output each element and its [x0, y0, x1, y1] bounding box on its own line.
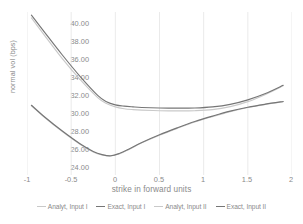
gridlines	[27, 12, 292, 175]
x-tick-label: 0.5	[146, 175, 172, 184]
x-axis-title: strike in forward units	[0, 185, 303, 194]
plot-svg	[27, 12, 292, 175]
x-tick-label: 0	[102, 175, 128, 184]
x-tick-label: 1.5	[234, 175, 260, 184]
x-tick-label: -0.5	[58, 175, 84, 184]
legend-item-label: Analyt, Input II	[165, 203, 206, 210]
legend-item[interactable]: Exact, Input I	[96, 203, 145, 210]
legend-item[interactable]: Analyt, Input I	[37, 203, 88, 210]
plot-area	[27, 12, 292, 175]
series-line	[31, 101, 283, 155]
x-tick-label: 1	[190, 175, 216, 184]
x-tick-label: -1	[14, 175, 40, 184]
y-axis-title: normal vol (bps)	[8, 17, 17, 117]
chart-legend: Analyt, Input I Exact, Input I Analyt, I…	[0, 203, 303, 210]
legend-item-label: Exact, Input II	[227, 203, 267, 210]
x-tick-label: 2	[278, 175, 303, 184]
series-line	[31, 102, 283, 156]
legend-swatch-icon	[96, 206, 105, 208]
series-line	[31, 15, 283, 108]
legend-item-label: Analyt, Input I	[48, 203, 88, 210]
legend-swatch-icon	[154, 206, 163, 208]
legend-item[interactable]: Analyt, Input II	[154, 203, 206, 210]
legend-item[interactable]: Exact, Input II	[216, 203, 267, 210]
series-line	[31, 18, 283, 111]
legend-item-label: Exact, Input I	[107, 203, 145, 210]
chart-container: normal vol (bps) 40.00 38.00 36.00 34.00…	[0, 0, 303, 224]
legend-swatch-icon	[216, 206, 225, 208]
series-lines	[31, 15, 283, 156]
legend-swatch-icon	[37, 206, 46, 208]
